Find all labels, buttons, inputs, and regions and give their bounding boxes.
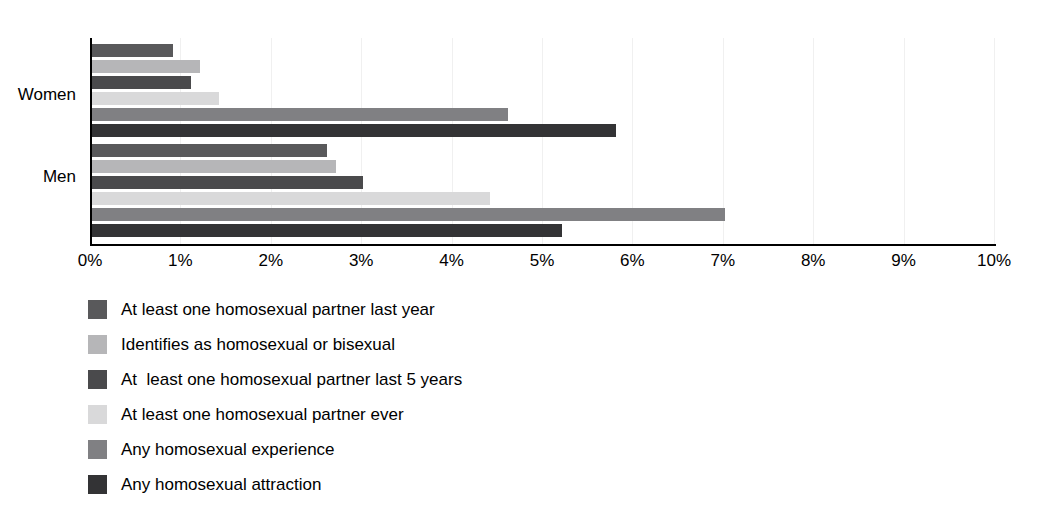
x-axis-tick-5: 5% <box>530 250 555 272</box>
bar-women-series-3 <box>92 76 191 89</box>
bar-women-series-4 <box>92 92 219 105</box>
legend-item[interactable]: At least one homosexual partner last yea… <box>88 292 648 327</box>
y-axis-label-women: Women <box>18 86 76 104</box>
legend-item-label: At least one homosexual partner ever <box>121 405 404 425</box>
legend-swatch-icon <box>88 370 107 389</box>
bar-women-series-2 <box>92 60 200 73</box>
x-axis-tick-labels: 0%1%2%3%4%5%6%7%8%9%10% <box>0 250 1040 278</box>
bar-women-series-1 <box>92 44 173 57</box>
legend-item-label: Identifies as homosexual or bisexual <box>121 335 395 355</box>
legend-item-label: Any homosexual experience <box>121 440 335 460</box>
legend-swatch-icon <box>88 440 107 459</box>
bar-men-series-4 <box>92 192 490 205</box>
bar-men-series-6 <box>92 224 562 237</box>
x-axis-tick-3: 3% <box>349 250 374 272</box>
legend-item-label: At least one homosexual partner last 5 y… <box>121 370 462 390</box>
bar-men-series-2 <box>92 160 336 173</box>
x-axis-tick-4: 4% <box>439 250 464 272</box>
bar-women-series-6 <box>92 124 616 137</box>
legend-item[interactable]: At least one homosexual partner last 5 y… <box>88 362 648 397</box>
legend-item[interactable]: At least one homosexual partner ever <box>88 397 648 432</box>
legend-item[interactable]: Any homosexual experience <box>88 432 648 467</box>
x-axis-tick-1: 1% <box>168 250 193 272</box>
x-axis-tick-9: 9% <box>891 250 916 272</box>
bar-series-container <box>92 38 996 244</box>
x-axis-tick-8: 8% <box>801 250 826 272</box>
legend-item-label: Any homosexual attraction <box>121 475 321 495</box>
bar-men-series-3 <box>92 176 363 189</box>
bar-men-series-5 <box>92 208 725 221</box>
bar-women-series-5 <box>92 108 508 121</box>
x-axis-tick-10: 10% <box>977 250 1011 272</box>
x-axis-tick-0: 0% <box>78 250 103 272</box>
x-axis-tick-7: 7% <box>711 250 736 272</box>
x-axis-line <box>90 244 996 246</box>
legend-item[interactable]: Any homosexual attraction <box>88 467 648 502</box>
legend-item[interactable]: Identifies as homosexual or bisexual <box>88 327 648 362</box>
x-axis-tick-2: 2% <box>259 250 284 272</box>
legend-item-label: At least one homosexual partner last yea… <box>121 300 435 320</box>
plot-area: Women Men 0%1%2%3%4%5%6%7%8%9%10% <box>0 0 1040 285</box>
bar-men-series-1 <box>92 144 327 157</box>
legend-swatch-icon <box>88 475 107 494</box>
y-axis-category-labels: Women Men <box>0 38 82 238</box>
x-axis-tick-6: 6% <box>620 250 645 272</box>
y-axis-label-men: Men <box>43 168 76 186</box>
legend-swatch-icon <box>88 405 107 424</box>
legend-swatch-icon <box>88 335 107 354</box>
chart-legend: At least one homosexual partner last yea… <box>88 292 648 502</box>
bar-chart: Women Men 0%1%2%3%4%5%6%7%8%9%10% At lea… <box>0 0 1040 514</box>
legend-swatch-icon <box>88 300 107 319</box>
